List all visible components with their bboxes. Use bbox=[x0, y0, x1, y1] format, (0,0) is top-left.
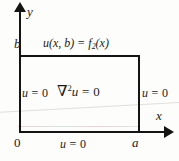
y-max-tick-label: b bbox=[14, 37, 21, 50]
x-axis-arrowhead-icon bbox=[164, 126, 174, 138]
origin-label: 0 bbox=[14, 136, 21, 149]
scan-artifact-diagonal-line bbox=[0, 101, 179, 113]
top-bc-equals: = bbox=[74, 36, 88, 50]
domain-right-edge bbox=[138, 55, 140, 132]
bottom-boundary-condition-label: u = 0 bbox=[60, 138, 86, 150]
pde-label: ∇2u = 0 bbox=[57, 84, 100, 99]
left-bc-equals: = 0 bbox=[28, 86, 48, 100]
y-axis-label: y bbox=[27, 5, 33, 18]
top-boundary-condition-label: u(x, b) = f2(x) bbox=[43, 37, 109, 51]
laplace-boundary-value-figure: y x b a 0 u(x, b) = f2(x) u = 0 u = 0 u … bbox=[0, 0, 179, 161]
top-bc-argument: (x) bbox=[96, 36, 109, 50]
x-axis-label: x bbox=[156, 109, 162, 122]
top-bc-lhs: u(x, b) bbox=[43, 36, 74, 50]
y-axis-line bbox=[19, 9, 21, 133]
nabla-icon: ∇ bbox=[57, 83, 67, 99]
domain-top-edge bbox=[19, 55, 140, 57]
y-axis-arrowhead-icon bbox=[14, 2, 26, 12]
x-max-tick-label: a bbox=[132, 136, 139, 149]
left-boundary-condition-label: u = 0 bbox=[22, 87, 48, 99]
right-bc-equals: = 0 bbox=[148, 86, 168, 100]
bottom-bc-equals: = 0 bbox=[66, 137, 86, 151]
scan-artifact-color-fringe bbox=[18, 126, 140, 127]
pde-equals: = 0 bbox=[78, 84, 100, 99]
x-axis-line bbox=[19, 131, 170, 133]
right-boundary-condition-label: u = 0 bbox=[142, 87, 168, 99]
